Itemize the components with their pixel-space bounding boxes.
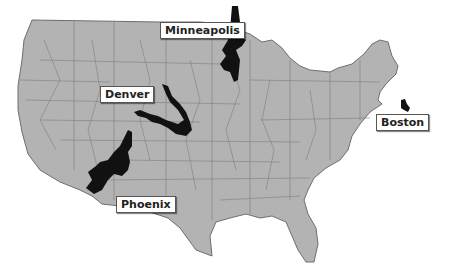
label-boston: Boston xyxy=(376,114,429,131)
label-phoenix: Phoenix xyxy=(116,196,176,213)
label-minneapolis: Minneapolis xyxy=(160,22,245,39)
us-map xyxy=(0,0,451,273)
label-denver: Denver xyxy=(100,86,154,103)
region-boston xyxy=(401,99,410,112)
